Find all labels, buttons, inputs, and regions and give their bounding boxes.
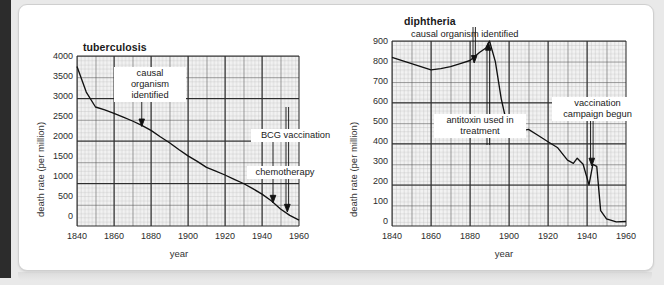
y-tick-label: 600 (350, 96, 388, 106)
figure-panel: tuberculosis death rate (per million) ye… (18, 4, 654, 271)
annotation-bcg-vaccination: BCG vaccination (251, 129, 340, 142)
x-tick-label: 1960 (609, 231, 643, 241)
y-tick-label: 1500 (35, 151, 73, 161)
x-tick-label: 1880 (453, 231, 487, 241)
page-root: tuberculosis death rate (per million) ye… (0, 0, 664, 285)
annotation-antitoxin: antitoxin used in treatment (434, 114, 526, 138)
y-tick-label: 2500 (35, 111, 73, 121)
annotation-causal-organism-diphtheria: causal organism identified (408, 28, 564, 41)
y-tick-label: 400 (350, 136, 388, 146)
y-tick-label: 3000 (35, 91, 73, 101)
x-tick-label: 1940 (245, 231, 279, 241)
chart-title-diphtheria: diphtheria (404, 15, 456, 27)
x-axis-title-tuberculosis: year (119, 248, 239, 259)
panel-bottom-shadow (18, 272, 652, 281)
y-tick-label: 900 (350, 36, 388, 46)
y-tick-label: 500 (35, 191, 73, 201)
chart-tuberculosis: tuberculosis death rate (per million) ye… (19, 5, 336, 270)
x-tick-label: 1900 (492, 231, 526, 241)
y-tick-label: 800 (350, 56, 388, 66)
annotation-causal-organism-tb: causal organism identified (114, 67, 186, 102)
y-tick-label: 2000 (35, 131, 73, 141)
y-tick-label: 200 (350, 176, 388, 186)
x-tick-label: 1860 (414, 231, 448, 241)
chart-title-tuberculosis: tuberculosis (83, 41, 147, 53)
y-tick-label: 4000 (35, 51, 73, 61)
annotation-chemotherapy: chemotherapy (247, 166, 323, 179)
x-tick-label: 1900 (171, 231, 205, 241)
y-tick-label: 0 (35, 211, 73, 221)
x-tick-label: 1840 (60, 231, 94, 241)
x-tick-label: 1840 (375, 231, 409, 241)
chart-diphtheria: diphtheria death rate (per million) year… (336, 5, 653, 270)
annotation-vaccination-campaign: vaccination campaign begun (552, 97, 643, 121)
x-axis-title-diphtheria: year (444, 248, 564, 259)
y-tick-label: 3500 (35, 71, 73, 81)
x-tick-label: 1920 (531, 231, 565, 241)
left-edge-rail (0, 0, 11, 278)
x-tick-label: 1860 (97, 231, 131, 241)
y-tick-label: 300 (350, 156, 388, 166)
x-tick-label: 1920 (208, 231, 242, 241)
y-tick-label: 500 (350, 116, 388, 126)
x-tick-label: 1960 (282, 231, 316, 241)
x-tick-label: 1940 (570, 231, 604, 241)
x-tick-label: 1880 (134, 231, 168, 241)
y-tick-label: 700 (350, 76, 388, 86)
y-tick-label: 0 (350, 216, 388, 226)
y-tick-label: 100 (350, 196, 388, 206)
y-tick-label: 1000 (35, 171, 73, 181)
